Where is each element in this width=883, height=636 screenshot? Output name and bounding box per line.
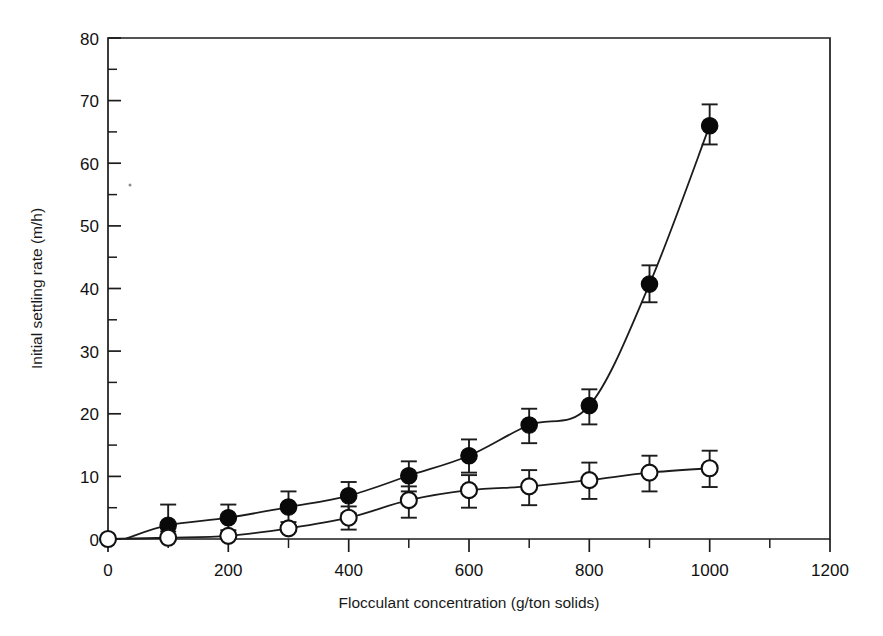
data-point-filled-circles <box>401 468 417 484</box>
y-tick-label: 0 <box>90 531 99 550</box>
y-tick-label: 20 <box>80 405 99 424</box>
data-point-filled-circles <box>581 397 597 413</box>
data-point-filled-circles <box>641 276 657 292</box>
figure-container: 0 10 20 30 40 50 60 70 80 0 200 400 600 … <box>0 0 883 636</box>
y-tick-label: 60 <box>80 155 99 174</box>
x-tick-label: 800 <box>575 561 603 580</box>
y-tick-label: 50 <box>80 217 99 236</box>
data-point-filled-circles <box>521 417 537 433</box>
data-point-open-circles <box>281 520 297 536</box>
x-tick-label: 600 <box>455 561 483 580</box>
data-point-open-circles <box>521 478 537 494</box>
y-tick-labels: 0 10 20 30 40 50 60 70 80 <box>80 30 99 550</box>
y-axis-title: Initial settling rate (m/h) <box>28 208 45 369</box>
data-point-open-circles <box>220 528 236 544</box>
data-point-filled-circles <box>220 510 236 526</box>
data-point-open-circles <box>160 530 176 546</box>
x-tick-label: 1000 <box>691 561 729 580</box>
data-point-open-circles <box>642 465 658 481</box>
data-point-filled-circles <box>340 488 356 504</box>
data-point-open-circles <box>100 531 116 547</box>
data-point-open-circles <box>401 492 417 508</box>
x-axis-title: Flocculant concentration (g/ton solids) <box>338 594 599 611</box>
data-point-filled-circles <box>701 117 717 133</box>
data-point-open-circles <box>461 482 477 498</box>
x-tick-label: 0 <box>103 561 112 580</box>
chart-background <box>0 0 883 636</box>
x-tick-label: 400 <box>335 561 363 580</box>
y-tick-label: 40 <box>80 280 99 299</box>
y-tick-label: 10 <box>80 468 99 487</box>
data-point-open-circles <box>702 460 718 476</box>
data-point-filled-circles <box>461 448 477 464</box>
settling-rate-scatter-chart: 0 10 20 30 40 50 60 70 80 0 200 400 600 … <box>0 0 883 636</box>
data-point-open-circles <box>581 472 597 488</box>
x-tick-label: 200 <box>214 561 242 580</box>
x-tick-label: 1200 <box>811 561 849 580</box>
y-tick-label: 80 <box>80 30 99 49</box>
scan-artifact-speck <box>129 184 132 187</box>
y-tick-label: 30 <box>80 343 99 362</box>
data-point-open-circles <box>341 510 357 526</box>
y-tick-label: 70 <box>80 92 99 111</box>
data-point-filled-circles <box>280 499 296 515</box>
